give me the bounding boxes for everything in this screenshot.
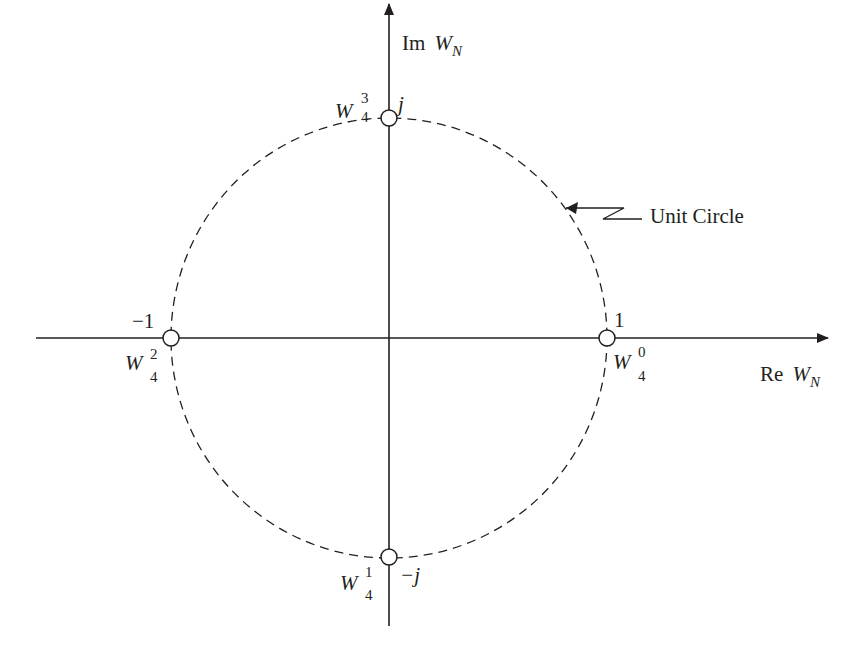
w4-1-sub: 4 [365, 587, 373, 603]
point-w4-0 [599, 330, 615, 346]
point-w4-3 [381, 110, 397, 126]
w4-1-label: W [340, 571, 360, 595]
w4-2-label: W [125, 351, 145, 375]
real-axis-label: Re WN [760, 362, 821, 390]
w4-3-sup: 3 [361, 90, 369, 106]
w4-3-value: j [395, 92, 404, 116]
imag-axis-label: Im WN [402, 31, 463, 59]
unit-circle-label: Unit Circle [650, 204, 744, 228]
w4-0-sup: 0 [638, 344, 646, 360]
w4-0-sub: 4 [638, 368, 646, 384]
unit-circle-diagram: Im WN Re WN Unit Circle j W 3 4 −1 W 2 4… [0, 0, 864, 653]
w4-1-sup: 1 [365, 564, 373, 580]
w4-2-sub: 4 [150, 369, 158, 385]
w4-2-value: −1 [132, 309, 154, 333]
w4-3-sub: 4 [361, 109, 369, 125]
diagram-canvas: Im WN Re WN Unit Circle j W 3 4 −1 W 2 4… [0, 0, 864, 653]
w4-3-label: W [335, 99, 355, 123]
w4-2-sup: 2 [150, 346, 158, 362]
w4-0-label: W [613, 350, 633, 374]
w4-0-value: 1 [614, 308, 625, 332]
point-w4-2 [163, 330, 179, 346]
point-w4-1 [381, 549, 397, 565]
w4-1-value: −j [400, 563, 420, 587]
unit-circle-callout: Unit Circle [566, 202, 744, 228]
